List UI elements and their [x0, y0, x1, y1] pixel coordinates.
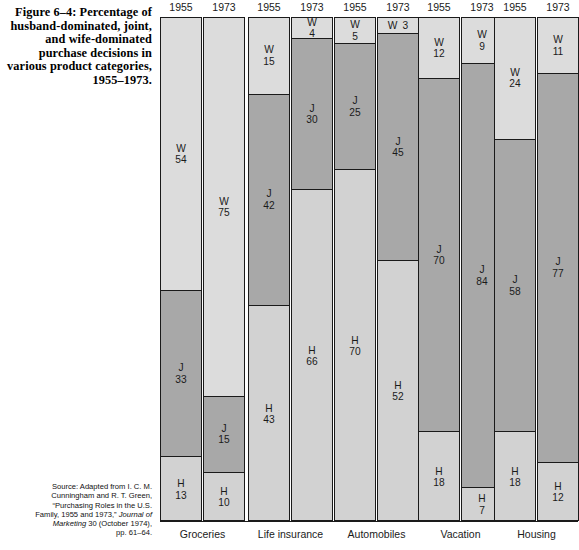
- segment-key-label: J: [266, 188, 271, 200]
- source-line-2: Cunningham and R. T. Green,: [51, 491, 152, 500]
- year-label: 1973: [377, 1, 419, 13]
- segment-value-label: 18: [509, 477, 520, 489]
- segment-value-label: 75: [218, 207, 229, 219]
- segment-value-label: 66: [306, 356, 317, 368]
- category-label: Automobiles: [334, 528, 419, 540]
- year-header-row: 1955197319551973195519731955197319551973: [160, 0, 578, 15]
- stacked-bar[interactable]: W24J58H18: [494, 17, 536, 521]
- year-label: 1955: [248, 1, 290, 13]
- segment-value-label: 12: [433, 48, 444, 60]
- bar-segment-j: J58: [495, 139, 535, 431]
- bar-segment-j: J30: [292, 38, 332, 189]
- year-label: 1955: [494, 1, 536, 13]
- segment-value-label: 10: [218, 497, 229, 509]
- bar-segment-w: W15: [249, 18, 289, 94]
- segment-value-label: 52: [392, 391, 403, 403]
- stacked-bar[interactable]: W15J42H43: [248, 17, 290, 521]
- segment-key-label: H: [478, 493, 485, 505]
- segment-value-label: 45: [392, 147, 403, 159]
- bar-segment-j: J25: [335, 43, 375, 169]
- source-line-4a: Family, 1955 and 1973,”: [35, 510, 118, 519]
- segment-key-label: W: [219, 196, 229, 208]
- segment-key-label: J: [479, 264, 484, 276]
- stacked-bar[interactable]: W54J33H13: [160, 17, 202, 521]
- segment-value-label: 42: [263, 200, 274, 212]
- segment-key-label: J: [512, 274, 517, 286]
- bar-segment-h: H10: [204, 472, 244, 521]
- segment-key-label: J: [395, 136, 400, 148]
- segment-key-label: H: [351, 335, 358, 347]
- bar-segment-h: H70: [335, 169, 375, 521]
- segment-key-label: J: [436, 244, 441, 256]
- bar-segment-h: H18: [419, 431, 459, 521]
- stacked-bar[interactable]: W11J77H12: [537, 17, 579, 521]
- segment-key-label: H: [394, 380, 401, 392]
- segment-value-label: 12: [552, 492, 563, 504]
- source-journal-name-cont: Marketing: [53, 519, 86, 528]
- bar-segment-j: J45: [378, 33, 418, 260]
- bar-segment-h: H12: [538, 462, 578, 521]
- segment-value-label: 70: [349, 346, 360, 358]
- segment-value-label: 15: [263, 56, 274, 68]
- segment-value-label: 11: [553, 46, 564, 58]
- bar-segment-w: W5: [335, 18, 375, 43]
- bar-segment-w: W4: [292, 18, 332, 38]
- segment-key-label: J: [221, 423, 226, 435]
- year-label: 1955: [418, 1, 460, 13]
- bar-segment-h: H18: [495, 431, 535, 521]
- segment-key-label: J: [555, 256, 560, 268]
- stacked-bar[interactable]: W4J30H66: [291, 17, 333, 521]
- segment-key-label: H: [435, 466, 442, 478]
- segment-key-label: J: [309, 103, 314, 115]
- segment-value-label: 54: [175, 154, 186, 166]
- bar-segment-h: H13: [161, 456, 201, 521]
- stacked-bar-chart: 1955197319551973195519731955197319551973…: [160, 0, 578, 550]
- bar-segment-h: H43: [249, 305, 289, 521]
- stacked-bar[interactable]: W5J25H70: [334, 17, 376, 521]
- segment-key-label: W: [553, 34, 563, 46]
- bar-segment-w: W54: [161, 18, 201, 290]
- segment-value-label: 18: [433, 477, 444, 489]
- segment-key-label: H: [511, 466, 518, 478]
- segment-value-label: 3: [402, 20, 408, 32]
- source-line-5b: 30 (October 1974),: [86, 519, 152, 528]
- segment-key-label: H: [220, 486, 227, 498]
- bar-segment-h: H52: [378, 260, 418, 521]
- bar-segment-w: W3: [378, 18, 418, 33]
- segment-value-label: 33: [175, 374, 186, 386]
- bar-segment-h: H66: [292, 189, 332, 521]
- year-label: 1973: [203, 1, 245, 13]
- baseline-axis: [160, 521, 578, 522]
- segment-key-label: H: [308, 345, 315, 357]
- bar-segment-j: J15: [204, 396, 244, 472]
- segment-key-label: W: [176, 143, 186, 155]
- bar-segment-w: W75: [204, 18, 244, 396]
- segment-value-label: 9: [479, 41, 485, 53]
- category-label: Vacation: [418, 528, 503, 540]
- segment-key-label: W: [388, 20, 398, 32]
- source-note: Source: Adapted from I. C. M. Cunningham…: [0, 482, 152, 538]
- year-label: 1955: [334, 1, 376, 13]
- segment-value-label: 24: [509, 78, 520, 90]
- year-label: 1973: [537, 1, 579, 13]
- category-label: Life insurance: [248, 528, 333, 540]
- segment-value-label: 5: [352, 31, 358, 43]
- bar-segment-j: J70: [419, 78, 459, 431]
- segment-key-label: H: [177, 478, 184, 490]
- segment-key-label: W: [264, 44, 274, 56]
- stacked-bar[interactable]: W12J70H18: [418, 17, 460, 521]
- segment-key-label: W: [477, 29, 487, 41]
- segment-value-label: 30: [306, 114, 317, 126]
- bar-segment-w: W24: [495, 18, 535, 139]
- bar-segment-w: W12: [419, 18, 459, 78]
- segment-value-label: 58: [509, 286, 520, 298]
- figure-caption: Figure 6–4: Percentage of husband-domina…: [0, 6, 152, 88]
- year-label: 1973: [291, 1, 333, 13]
- category-label: Groceries: [160, 528, 245, 540]
- segment-key-label: W: [434, 37, 444, 49]
- bar-segment-j: J42: [249, 94, 289, 306]
- stacked-bar[interactable]: W75J15H10: [203, 17, 245, 521]
- stacked-bar[interactable]: W3J45H52: [377, 17, 419, 521]
- segment-key-label: J: [178, 362, 183, 374]
- source-line-1: Source: Adapted from I. C. M.: [52, 482, 152, 491]
